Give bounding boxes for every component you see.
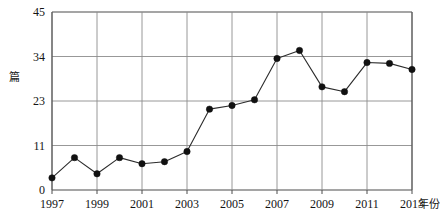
x-axis-title: 年份 [418, 199, 440, 210]
y-axis-tick-label: 23 [33, 95, 45, 107]
x-tick-marks [52, 190, 412, 194]
x-axis-tick-label: 2003 [167, 198, 207, 210]
x-axis-tick-label: 2007 [257, 198, 297, 210]
data-point [94, 171, 100, 177]
data-point [71, 154, 77, 160]
data-point [251, 97, 257, 103]
data-point [409, 66, 415, 72]
x-axis-tick-label: 2011 [347, 198, 387, 210]
x-axis-tick-label: 1997 [32, 198, 72, 210]
line-chart: 0112334451997199920012003200520072009201… [0, 0, 444, 222]
data-point [296, 47, 302, 53]
y-axis-tick-label: 0 [39, 184, 45, 196]
y-axis-tick-label: 11 [33, 140, 45, 152]
y-axis-title: 篇 [9, 72, 20, 83]
data-point [184, 148, 190, 154]
x-axis-tick-label: 2005 [212, 198, 252, 210]
data-point [206, 106, 212, 112]
data-point [341, 89, 347, 95]
x-axis-tick-label: 2001 [122, 198, 162, 210]
data-point [49, 175, 55, 181]
x-axis-tick-label: 1999 [77, 198, 117, 210]
x-axis-tick-label: 2009 [302, 198, 342, 210]
data-point [274, 55, 280, 61]
chart-canvas [0, 0, 444, 222]
y-axis-tick-label: 34 [33, 51, 45, 63]
data-point [364, 59, 370, 65]
data-point [319, 84, 325, 90]
data-point [161, 158, 167, 164]
data-point [139, 161, 145, 167]
y-axis-tick-label: 45 [33, 6, 45, 18]
data-point [386, 60, 392, 66]
data-point [229, 102, 235, 108]
data-point [116, 154, 122, 160]
